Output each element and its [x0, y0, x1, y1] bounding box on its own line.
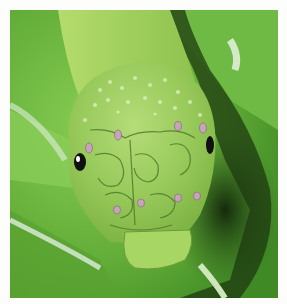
- caterpillar-illustration: [10, 10, 278, 298]
- caterpillar-photo: [10, 10, 278, 298]
- image-frame: [0, 0, 287, 304]
